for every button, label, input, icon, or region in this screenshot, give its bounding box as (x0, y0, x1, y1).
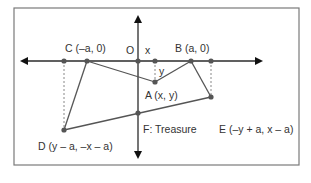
x-axis-right-arrow-icon (255, 57, 263, 65)
treasure-geometry-diagram: C (–a, 0) O x B (a, 0) y A (x, y) F: Tre… (0, 0, 311, 183)
segment-c-a (87, 61, 155, 82)
point-b (188, 58, 193, 63)
x-axis-left-arrow-icon (20, 57, 28, 65)
label-x-marker: x (145, 45, 150, 56)
point-x-marker (152, 58, 157, 63)
label-y-marker: y (159, 66, 164, 77)
point-e-projection (208, 58, 213, 63)
label-point-e: E (–y + a, x – a) (219, 124, 293, 135)
point-d-projection (61, 58, 66, 63)
label-point-a: A (x, y) (145, 90, 178, 101)
label-point-b: B (a, 0) (175, 43, 209, 54)
y-axis-down-arrow-icon (134, 151, 142, 159)
point-origin (135, 58, 140, 63)
label-point-f: F: Treasure (143, 124, 197, 135)
point-c (84, 58, 89, 63)
point-d (61, 127, 66, 132)
point-a (152, 79, 157, 84)
y-axis-up-arrow-icon (134, 15, 142, 23)
point-f-treasure (135, 110, 140, 115)
segment-c-d (64, 61, 87, 130)
point-e (208, 94, 213, 99)
label-origin: O (126, 45, 134, 56)
label-point-c: C (–a, 0) (65, 43, 106, 54)
segment-b-e (191, 61, 211, 97)
label-point-d: D (y – a, –x – a) (38, 141, 113, 152)
